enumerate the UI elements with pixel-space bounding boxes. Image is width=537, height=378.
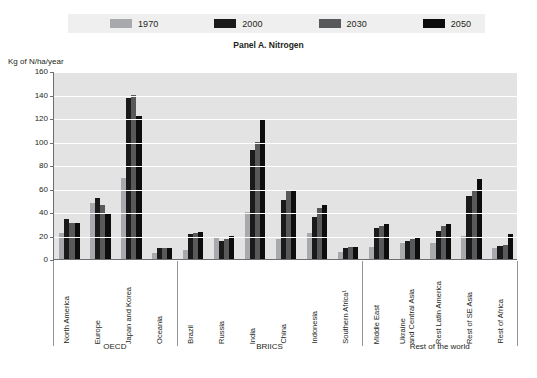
legend-item-1970: 1970 bbox=[110, 19, 158, 29]
legend-item-2030: 2030 bbox=[319, 19, 367, 29]
gridline bbox=[54, 166, 517, 167]
chart-legend: 1970200020302050 bbox=[68, 14, 485, 33]
bar-2050 bbox=[415, 237, 420, 259]
y-axis-tick bbox=[50, 166, 54, 167]
y-axis-tick-label: 120 bbox=[18, 115, 48, 123]
gridline bbox=[54, 72, 517, 73]
bar-2050 bbox=[508, 234, 513, 259]
group-label: BRIICS bbox=[177, 342, 363, 351]
bar-2050 bbox=[229, 236, 234, 260]
bar-2050 bbox=[291, 191, 296, 259]
legend-label: 2000 bbox=[242, 19, 262, 29]
legend-label: 1970 bbox=[138, 19, 158, 29]
y-axis-unit-label: Kg of N/ha/year bbox=[8, 57, 64, 66]
group-label: Rest of the world bbox=[362, 342, 517, 351]
y-axis-tick bbox=[50, 119, 54, 120]
bar-2050 bbox=[446, 224, 451, 259]
legend-swatch-icon bbox=[423, 19, 445, 28]
gridline bbox=[54, 119, 517, 120]
x-axis-group-labels: OECDBRIICSRest of the world bbox=[53, 330, 517, 360]
bar-2050 bbox=[167, 248, 172, 259]
plot-area bbox=[53, 72, 517, 260]
gridline bbox=[54, 237, 517, 238]
y-axis-tick bbox=[50, 72, 54, 73]
group-divider bbox=[517, 320, 518, 346]
legend-item-2050: 2050 bbox=[423, 19, 471, 29]
bar-2050 bbox=[75, 223, 80, 259]
y-axis-tick-label: 0 bbox=[18, 256, 48, 264]
gridline bbox=[54, 96, 517, 97]
y-axis-tick-label: 140 bbox=[18, 92, 48, 100]
y-axis-tick bbox=[50, 143, 54, 144]
bar-2050 bbox=[477, 179, 482, 259]
y-axis-tick-label: 160 bbox=[18, 68, 48, 76]
y-axis-tick-label: 100 bbox=[18, 139, 48, 147]
chart-page: 1970200020302050 Panel A. Nitrogen Kg of… bbox=[0, 0, 537, 378]
legend-swatch-icon bbox=[110, 19, 132, 28]
legend-swatch-icon bbox=[319, 19, 341, 28]
y-axis-tick-label: 60 bbox=[18, 186, 48, 194]
y-axis-tick bbox=[50, 237, 54, 238]
y-axis-tick bbox=[50, 213, 54, 214]
y-axis-tick-label: 40 bbox=[18, 209, 48, 217]
gridline bbox=[54, 213, 517, 214]
legend-label: 2030 bbox=[347, 19, 367, 29]
gridline bbox=[54, 190, 517, 191]
y-axis-tick-label: 80 bbox=[18, 162, 48, 170]
legend-item-2000: 2000 bbox=[214, 19, 262, 29]
bar-2050 bbox=[353, 247, 358, 259]
legend-swatch-icon bbox=[214, 19, 236, 28]
legend-label: 2050 bbox=[451, 19, 471, 29]
y-axis-tick-label: 20 bbox=[18, 233, 48, 241]
bar-2050 bbox=[384, 224, 389, 259]
y-axis-tick bbox=[50, 190, 54, 191]
y-axis-tick-labels: 020406080100120140160 bbox=[14, 72, 48, 260]
group-label: OECD bbox=[53, 342, 177, 351]
y-axis-tick bbox=[50, 96, 54, 97]
gridline bbox=[54, 143, 517, 144]
page-title: Panel A. Nitrogen bbox=[0, 40, 537, 50]
